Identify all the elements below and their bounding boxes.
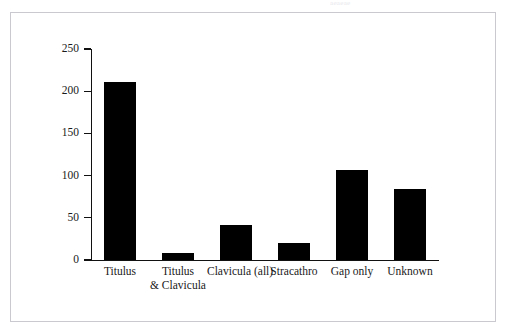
y-axis-tick <box>84 133 91 134</box>
x-axis-category-label: Titulus& Clavicula <box>149 265 207 292</box>
bar <box>162 253 195 260</box>
x-axis-category-label-line: Titulus <box>162 265 194 277</box>
bar <box>104 82 137 260</box>
y-axis-tick-label: 150 <box>27 127 79 139</box>
bar <box>220 225 253 260</box>
figure-frame: 050100150200250 TitulusTitulus& Clavicul… <box>10 12 496 322</box>
y-axis-tick-label-text: 100 <box>33 170 79 182</box>
bars-layer <box>91 49 439 260</box>
bar <box>278 243 311 260</box>
y-axis-tick <box>84 48 91 49</box>
bar <box>336 170 369 260</box>
cropped-text-sliver: aeaeae <box>330 0 450 7</box>
x-axis-category-label: Clavicula (all) <box>207 265 265 279</box>
x-axis-category-label: Unknown <box>381 265 439 279</box>
y-axis-tick-label-text: 150 <box>33 127 79 139</box>
x-axis-category-labels: TitulusTitulus& ClaviculaClavicula (all)… <box>91 265 443 305</box>
bar <box>394 189 427 260</box>
y-axis-tick-label-text: 200 <box>33 85 79 97</box>
y-axis-tick-label: 200 <box>27 85 79 97</box>
y-axis-tick-label: 250 <box>27 43 79 55</box>
x-axis-category-label-line: Clavicula (all) <box>207 265 273 277</box>
x-axis-category-label-line: Gap only <box>331 265 373 277</box>
x-axis-category-label-line: Stracathro <box>270 265 317 277</box>
y-axis-tick <box>84 259 91 260</box>
y-axis-tick <box>84 217 91 218</box>
y-axis-tick <box>84 91 91 92</box>
y-axis-tick <box>84 175 91 176</box>
y-axis-tick-label-text: 250 <box>33 43 79 55</box>
x-axis-line <box>91 260 439 261</box>
bar-chart-plot-area: 050100150200250 TitulusTitulus& Clavicul… <box>11 13 497 323</box>
y-axis-tick-label: 0 <box>27 254 79 266</box>
x-axis-category-label: Gap only <box>323 265 381 279</box>
y-axis-tick-label: 50 <box>27 212 79 224</box>
x-axis-category-label-line: Unknown <box>387 265 432 277</box>
y-axis-tick-label-text: 0 <box>33 254 79 266</box>
x-axis-category-label: Titulus <box>91 265 149 279</box>
y-axis-tick-label: 100 <box>27 170 79 182</box>
x-axis-category-label-line: & Clavicula <box>149 279 207 293</box>
x-axis-category-label: Stracathro <box>265 265 323 279</box>
x-axis-category-label-line: Titulus <box>104 265 136 277</box>
y-axis-tick-label-text: 50 <box>33 212 79 224</box>
